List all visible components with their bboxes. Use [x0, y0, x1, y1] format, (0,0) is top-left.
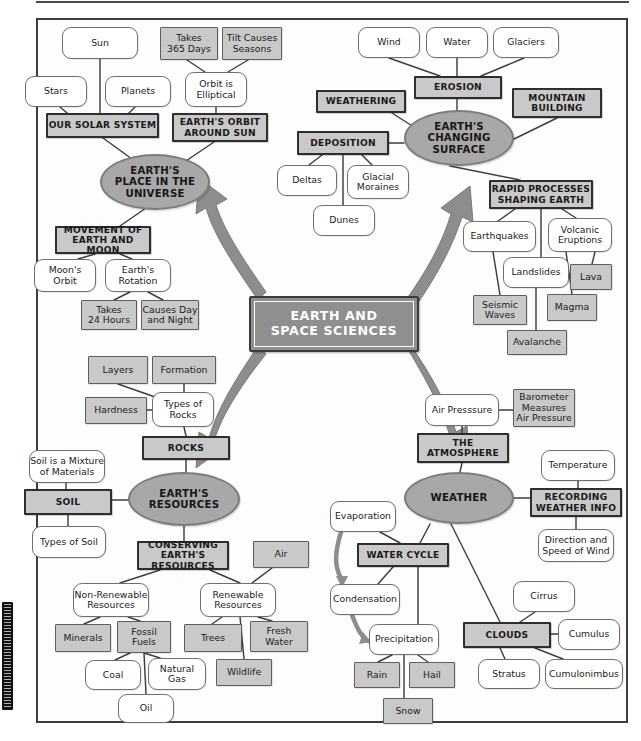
- node-label: Fresh Water: [265, 626, 292, 647]
- node-wind: Wind: [358, 27, 420, 58]
- node-label: Barometer Measures Air Pressure: [516, 392, 571, 423]
- node-label: EARTH'S ORBIT AROUND SUN: [180, 117, 261, 137]
- node-label: Wind: [377, 37, 400, 47]
- node-label: Types of Soil: [40, 537, 98, 547]
- node-magma: Magma: [547, 294, 597, 321]
- node-cumulus: Cumulus: [558, 619, 620, 650]
- node-direction-speed: Direction and Speed of Wind: [538, 529, 614, 562]
- strand-oval-resources: EARTH'S RESOURCES: [128, 472, 240, 526]
- node-wildlife: Wildlife: [216, 659, 272, 686]
- node-weathering: WEATHERING: [316, 90, 406, 113]
- node-erosion: EROSION: [414, 76, 502, 99]
- node-label: Layers: [103, 365, 134, 375]
- node-label: EARTH'S RESOURCES: [149, 488, 220, 511]
- center-title-text: EARTH AND SPACE SCIENCES: [271, 309, 398, 339]
- node-the-atmosphere: THE ATMOSPHERE: [417, 433, 509, 463]
- node-label: THE ATMOSPHERE: [427, 438, 499, 458]
- node-label: WEATHERING: [326, 96, 397, 106]
- node-air-pressure: Air Presssure: [425, 394, 499, 426]
- node-takes-365-days: Takes 365 Days: [160, 27, 218, 60]
- node-label: Formation: [161, 365, 208, 375]
- node-label: Orbit is Elliptical: [196, 79, 235, 100]
- node-label: Rain: [367, 670, 387, 680]
- node-clouds: CLOUDS: [463, 622, 551, 648]
- node-label: CLOUDS: [486, 630, 529, 640]
- node-label: Oil: [140, 703, 152, 713]
- node-snow: Snow: [383, 698, 433, 724]
- node-label: Deltas: [292, 175, 322, 185]
- node-rain: Rain: [354, 662, 400, 688]
- node-label: Wildlife: [227, 667, 261, 677]
- node-label: Landslides: [511, 267, 560, 277]
- center-title-plate: EARTH AND SPACE SCIENCES: [249, 296, 419, 352]
- node-label: Non-Renewable Resources: [75, 590, 148, 611]
- node-deposition: DEPOSITION: [297, 131, 389, 155]
- node-label: Hardness: [94, 405, 138, 415]
- node-label: EARTH'S CHANGING SURFACE: [427, 121, 490, 155]
- node-label: MOUNTAIN BUILDING: [528, 93, 585, 113]
- node-label: RECORDING WEATHER INFO: [536, 492, 617, 512]
- node-label: EROSION: [434, 82, 482, 92]
- node-renewable: Renewable Resources: [200, 583, 276, 617]
- node-tilt-seasons: Tilt Causes Seasons: [222, 27, 282, 60]
- node-cirrus: Cirrus: [513, 581, 575, 612]
- node-label: Planets: [121, 86, 155, 96]
- node-glacial-moraines: Glacial Moraines: [347, 165, 409, 199]
- node-trees: Trees: [184, 624, 242, 652]
- node-label: Direction and Speed of Wind: [542, 535, 609, 556]
- node-earths-rotation: Earth's Rotation: [105, 259, 171, 292]
- node-label: RAPID PROCESSES SHAPING EARTH: [492, 184, 590, 204]
- node-label: Types of Rocks: [164, 399, 202, 420]
- node-label: Sun: [91, 38, 109, 48]
- node-label: Natural Gas: [160, 664, 194, 685]
- node-label: Seismic Waves: [482, 300, 518, 321]
- node-label: MOVEMENT OF EARTH AND MOON: [57, 225, 149, 256]
- node-formation: Formation: [152, 356, 216, 384]
- node-label: Glaciers: [507, 37, 545, 47]
- node-label: Air Presssure: [432, 405, 492, 415]
- node-planets: Planets: [105, 76, 171, 107]
- node-coal: Coal: [85, 660, 141, 690]
- node-label: OUR SOLAR SYSTEM: [49, 120, 157, 130]
- node-glaciers: Glaciers: [493, 27, 559, 58]
- strand-oval-weather: WEATHER: [404, 472, 514, 524]
- node-evaporation: Evaporation: [330, 501, 396, 532]
- node-label: DEPOSITION: [310, 138, 376, 148]
- node-temperature: Temperature: [541, 450, 615, 481]
- node-non-renewable: Non-Renewable Resources: [73, 583, 149, 617]
- node-label: Takes 365 Days: [167, 33, 211, 54]
- node-rocks: ROCKS: [142, 436, 230, 460]
- node-types-of-soil: Types of Soil: [32, 526, 106, 558]
- node-label: Stratus: [492, 669, 525, 679]
- node-fossil-fuels: Fossil Fuels: [117, 621, 171, 653]
- node-label: Air: [275, 549, 288, 559]
- concept-map-page: EARTH AND SPACE SCIENCES EARTH'S PLACE I…: [0, 0, 641, 741]
- node-hardness: Hardness: [85, 397, 147, 424]
- node-label: EARTH'S PLACE IN THE UNIVERSE: [115, 165, 196, 199]
- node-condensation: Condensation: [330, 584, 400, 615]
- node-precipitation: Precipitation: [369, 624, 439, 655]
- node-sun: Sun: [62, 27, 138, 59]
- node-stratus: Stratus: [478, 659, 540, 689]
- node-label: Cumulonimbus: [549, 669, 619, 679]
- node-lava: Lava: [570, 264, 612, 290]
- node-label: Cumulus: [569, 629, 610, 639]
- node-soil-mixture: Soil is a Mixture of Materials: [29, 450, 105, 483]
- node-label: Earth's Rotation: [119, 265, 158, 286]
- node-label: Temperature: [549, 460, 608, 470]
- node-label: ROCKS: [168, 443, 204, 453]
- node-mountain-building: MOUNTAIN BUILDING: [512, 88, 602, 118]
- node-label: Earthquakes: [470, 231, 528, 241]
- node-barometer: Barometer Measures Air Pressure: [513, 389, 575, 427]
- node-label: Soil is a Mixture of Materials: [30, 456, 104, 477]
- node-label: Coal: [103, 670, 123, 680]
- strand-oval-changing: EARTH'S CHANGING SURFACE: [404, 110, 514, 166]
- node-fresh-water: Fresh Water: [250, 621, 308, 652]
- node-movement: MOVEMENT OF EARTH AND MOON: [55, 226, 151, 254]
- node-label: Tilt Causes Seasons: [227, 33, 278, 54]
- node-seismic-waves: Seismic Waves: [473, 295, 527, 325]
- node-orbit-elliptical: Orbit is Elliptical: [185, 72, 247, 107]
- node-moons-orbit: Moon's Orbit: [34, 259, 96, 292]
- node-label: Renewable Resources: [213, 590, 264, 611]
- node-label: Stars: [44, 86, 68, 96]
